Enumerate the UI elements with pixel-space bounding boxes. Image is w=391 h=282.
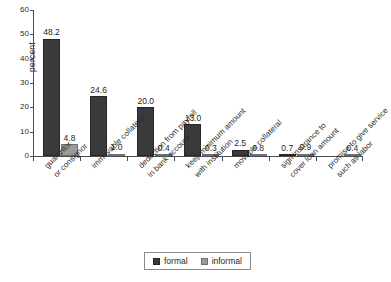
y-axis-tick-mark	[30, 83, 33, 84]
y-axis-tick-label: 40	[16, 55, 29, 63]
x-axis-tick-mark	[33, 157, 34, 161]
y-axis-tick-label: 10	[16, 128, 29, 136]
y-axis-tick-mark	[30, 107, 33, 108]
bar-value-label: 20.0	[138, 97, 155, 106]
bar-value-label: 2.5	[234, 139, 246, 148]
chart-legend: formal informal	[144, 252, 251, 270]
y-axis-tick-label: 50	[16, 30, 29, 38]
legend-swatch-informal	[201, 258, 208, 265]
legend-swatch-formal	[153, 258, 160, 265]
bar-formal[interactable]	[43, 39, 60, 156]
y-axis-tick-mark	[30, 59, 33, 60]
bar-value-label: 48.2	[43, 28, 60, 37]
legend-label-formal: formal	[164, 256, 188, 266]
y-axis-line	[33, 10, 34, 157]
x-axis-tick-mark	[269, 157, 270, 161]
legend-label-informal: informal	[212, 256, 242, 266]
x-axis-tick-mark	[127, 157, 128, 161]
y-axis-tick-label: 60	[16, 6, 29, 14]
bar-value-label: 24.6	[90, 86, 107, 95]
y-axis-tick-label: 0	[16, 152, 29, 160]
y-axis-tick-mark	[30, 132, 33, 133]
legend-item-formal[interactable]: formal	[153, 256, 188, 266]
y-axis-tick-mark	[30, 34, 33, 35]
y-axis-tick-mark	[30, 10, 33, 11]
y-axis-tick-label: 20	[16, 103, 29, 111]
legend-item-informal[interactable]: informal	[201, 256, 242, 266]
y-axis-tick-label: 30	[16, 79, 29, 87]
